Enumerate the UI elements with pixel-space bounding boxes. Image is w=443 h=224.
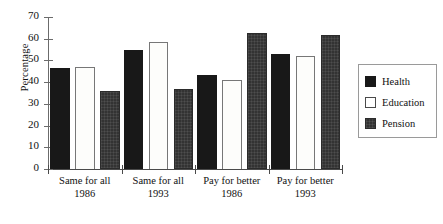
legend-swatch-health	[365, 76, 376, 87]
x-group-label-1: Same for all1986	[48, 174, 122, 200]
x-group-label-4: Pay for better1993	[269, 174, 343, 200]
legend-swatch-pension	[365, 118, 376, 129]
x-group-label-line2: 1993	[269, 187, 343, 200]
y-tick-label: 50	[28, 52, 39, 64]
bar-education-3	[222, 80, 242, 169]
x-tick	[48, 165, 49, 174]
bar-health-2	[124, 50, 144, 169]
y-tick-label: 60	[28, 31, 39, 43]
y-tick-label: 70	[28, 9, 39, 21]
x-group-label-line1: Same for all	[48, 174, 122, 187]
legend-item-health: Health	[365, 71, 436, 92]
x-group-label-line1: Same for all	[122, 174, 196, 187]
x-group-label-line1: Pay for better	[269, 174, 343, 187]
bar-health-4	[271, 54, 291, 169]
legend-label: Pension	[382, 118, 415, 130]
plot-area: 010203040506070	[48, 17, 342, 169]
y-tick-60: 60	[44, 39, 53, 40]
bar-pension-2	[174, 89, 194, 169]
y-tick-label: 10	[28, 139, 39, 151]
x-group-label-line1: Pay for better	[195, 174, 269, 187]
legend-swatch-education	[365, 97, 376, 108]
x-tick	[342, 165, 343, 174]
x-group-label-line2: 1986	[195, 187, 269, 200]
x-tick	[122, 165, 123, 174]
bar-education-1	[75, 67, 95, 169]
y-tick-label: 20	[28, 118, 39, 130]
x-tick	[269, 165, 270, 174]
bar-education-4	[296, 56, 316, 169]
bar-health-3	[197, 75, 217, 169]
x-group-label-line2: 1993	[122, 187, 196, 200]
bar-pension-1	[100, 91, 120, 169]
x-group-label-line2: 1986	[48, 187, 122, 200]
legend: HealthEducationPension	[358, 64, 437, 138]
y-tick-label: 0	[34, 161, 40, 173]
bar-pension-3	[247, 33, 267, 169]
bar-education-2	[149, 42, 169, 169]
y-tick-50: 50	[44, 60, 53, 61]
x-group-label-2: Same for all1993	[122, 174, 196, 200]
legend-label: Health	[382, 76, 410, 88]
y-axis-title: Percentage	[19, 8, 30, 128]
y-tick-70: 70	[44, 17, 53, 18]
legend-item-pension: Pension	[365, 113, 436, 134]
bar-pension-4	[321, 35, 341, 169]
x-tick	[195, 165, 196, 174]
legend-label: Education	[382, 97, 425, 109]
x-group-label-3: Pay for better1986	[195, 174, 269, 200]
bar-health-1	[50, 68, 70, 169]
y-tick-label: 40	[28, 74, 39, 86]
y-tick-label: 30	[28, 96, 39, 108]
legend-item-education: Education	[365, 92, 436, 113]
bar-chart: Percentage 010203040506070 Same for all1…	[0, 0, 443, 224]
